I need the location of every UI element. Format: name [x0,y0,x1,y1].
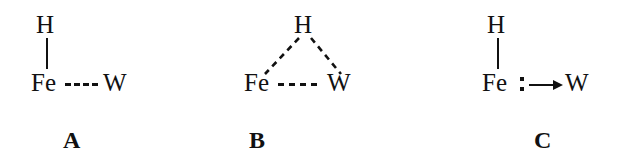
lone-pair-dot [520,77,524,81]
dash-segment [311,83,317,86]
dash-segment [83,83,89,86]
dash-segment [74,83,80,86]
atom-tungsten-c: W [565,70,589,95]
atom-tungsten-b: W [327,70,351,95]
dash-segment [65,83,71,86]
dash-segment [278,83,284,86]
lone-pair-dot [520,87,524,91]
dash-segment [289,83,295,86]
chemical-structures-figure: H Fe W A H Fe W B H [0,0,625,161]
structure-caption-b: B [249,128,265,152]
lone-pair-dots-c [520,77,524,91]
dash-segment [300,83,306,86]
bond-h-fe-solid-c [497,38,499,69]
bond-fe-w-dative-arrow-c [529,84,563,86]
atom-hydrogen-b: H [294,12,312,37]
atom-hydrogen-c: H [487,12,505,37]
bond-fe-w-dashed-b [278,83,325,86]
atom-iron-b: Fe [244,70,269,95]
bond-fe-w-dashed-a [65,83,102,86]
arrow-shaft [529,84,555,86]
atom-tungsten-a: W [103,70,127,95]
atom-iron-c: Fe [482,70,507,95]
atom-hydrogen-a: H [36,12,54,37]
atom-iron-a: Fe [31,70,56,95]
structure-caption-c: C [534,128,551,152]
dash-segment [92,83,98,86]
bond-h-fe-solid-a [46,38,48,69]
arrow-head [553,80,563,90]
structure-caption-a: A [63,128,80,152]
